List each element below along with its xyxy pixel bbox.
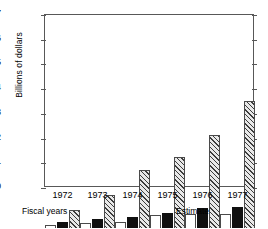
y-tick-label: 5 bbox=[0, 58, 1, 67]
bar-solid-bar-1977 bbox=[232, 207, 243, 228]
bar-solid-bar-1972 bbox=[57, 222, 68, 228]
y-tick-label: 3 bbox=[0, 108, 1, 117]
y-tick-label: 7 bbox=[0, 9, 1, 18]
bar-hatched-bar-1972 bbox=[69, 210, 80, 228]
bar-open-bar-1974 bbox=[115, 222, 126, 229]
bar-open-bar-1976 bbox=[185, 214, 196, 228]
bar-chart-figure: Billions of dollars 01234567 19721973197… bbox=[0, 0, 268, 228]
bar-solid-bar-1974 bbox=[127, 217, 138, 228]
y-axis-title: Billions of dollars bbox=[14, 0, 24, 130]
bar-open-bar-1972 bbox=[45, 225, 56, 228]
x-tick-label-1977: 1977 bbox=[215, 190, 261, 200]
bar-open-bar-1973 bbox=[80, 223, 91, 228]
bar-solid-bar-1975 bbox=[162, 213, 173, 228]
bar-solid-bar-1973 bbox=[92, 219, 103, 228]
y-tick-label: 2 bbox=[0, 133, 1, 142]
bar-open-bar-1977 bbox=[220, 214, 231, 228]
fiscal-years-note: Fiscal years bbox=[22, 206, 67, 216]
y-tick-label: 6 bbox=[0, 34, 1, 43]
bar-hatched-bar-1977 bbox=[244, 101, 255, 228]
bar-hatched-bar-1976 bbox=[209, 135, 220, 229]
y-tick-label: 4 bbox=[0, 83, 1, 92]
y-tick-label: 0 bbox=[0, 182, 1, 191]
y-tick-label: 1 bbox=[0, 157, 1, 166]
bar-open-bar-1975 bbox=[150, 215, 161, 228]
estimate-note: Estimate bbox=[176, 206, 209, 216]
